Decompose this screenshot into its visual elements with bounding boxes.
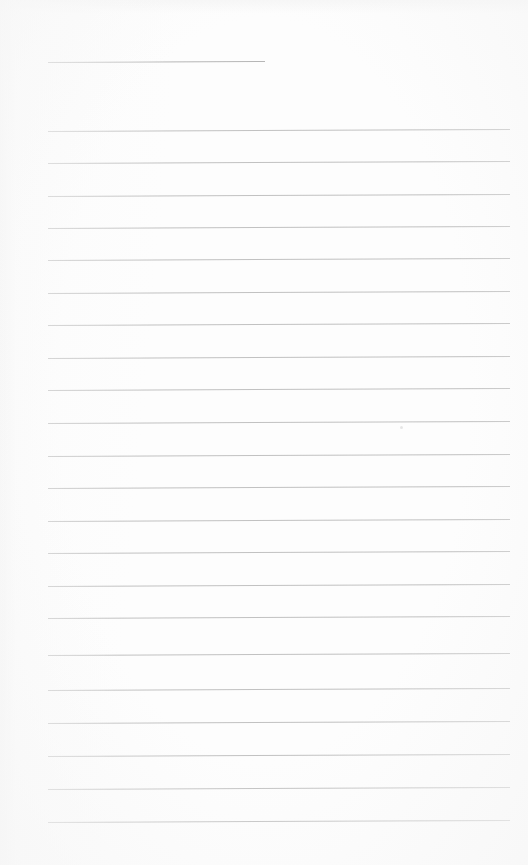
ruled-line — [48, 519, 510, 522]
ruled-line — [48, 323, 510, 326]
ruled-line — [48, 454, 510, 457]
ruled-line — [48, 291, 510, 294]
ruled-line — [48, 161, 510, 164]
ruled-line — [48, 616, 510, 619]
ruled-line — [48, 356, 510, 359]
ruled-line — [48, 421, 510, 424]
ruled-line — [48, 688, 510, 691]
ruled-line — [48, 721, 510, 724]
ruled-line — [48, 584, 510, 587]
ruled-line — [48, 129, 510, 132]
ruled-line — [48, 226, 510, 229]
scan-edge-shading-left — [0, 0, 16, 865]
ruled-line — [48, 194, 510, 197]
scan-edge-shading-top — [0, 0, 528, 14]
notebook-page — [0, 0, 528, 865]
ruled-line — [48, 653, 510, 656]
title-rule — [48, 61, 265, 63]
ruled-line — [48, 754, 510, 757]
ruled-line — [48, 258, 510, 261]
ruled-line — [48, 551, 510, 554]
ruled-line — [48, 820, 510, 823]
scan-speck — [400, 426, 403, 429]
ruled-line — [48, 388, 510, 391]
ruled-line — [48, 486, 510, 489]
ruled-line — [48, 787, 510, 790]
